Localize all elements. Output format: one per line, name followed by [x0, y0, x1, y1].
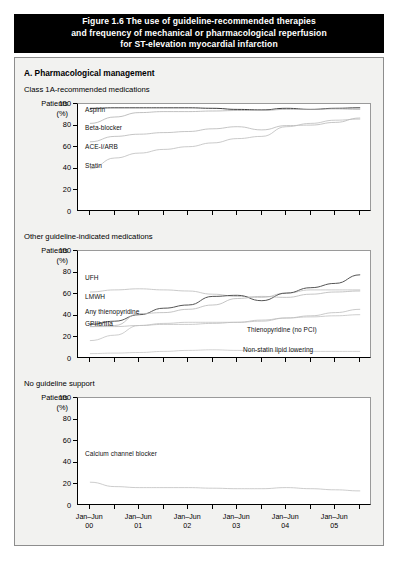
ytick-label-80: 80 — [49, 120, 71, 129]
xtick-label-year-2: 02 — [164, 522, 210, 531]
series-label-thienopyridine-no-pci: Thienopyridine (no PCI) — [247, 326, 317, 333]
xtick-mark-5 — [212, 358, 213, 362]
xtick-mark-2 — [138, 505, 139, 509]
figure-title-line-1: Figure 1.6 The use of guideline-recommen… — [82, 16, 316, 27]
xtick-mark-4 — [187, 358, 188, 362]
chart-3-title: No guideline support — [24, 379, 95, 388]
figure-body-panel: A. Pharmacological management Class 1A-r… — [14, 57, 384, 546]
xtick-mark-9 — [310, 358, 311, 362]
figure-title-line-3: for ST-elevation myocardial infarction — [120, 39, 278, 50]
xtick-mark-6 — [236, 505, 237, 509]
xtick-mark-0 — [89, 211, 90, 215]
xtick-mark-8 — [285, 505, 286, 509]
xtick-label-year-0: 00 — [66, 522, 112, 531]
ytick-label-100: 100 — [49, 246, 71, 255]
xtick-label-group-1: Jan–Jun01 — [115, 513, 161, 532]
chart-2-plot-area — [77, 250, 371, 358]
figure-root: Figure 1.6 The use of guideline-recommen… — [0, 0, 397, 570]
xtick-label-group-5: Jan–Jun05 — [311, 513, 357, 532]
series-label-ace-i-arb: ACE-I/ARB — [85, 143, 118, 150]
xtick-mark-6 — [236, 358, 237, 362]
xtick-mark-1 — [114, 358, 115, 362]
ytick-label-40: 40 — [49, 163, 71, 172]
xtick-label-period-4: Jan–Jun — [262, 513, 308, 522]
series-label-calcium-channel-blocker: Calcium channel blocker — [85, 450, 157, 457]
xtick-mark-8 — [285, 358, 286, 362]
ytick-label-60: 60 — [49, 436, 71, 445]
xtick-label-year-4: 04 — [262, 522, 308, 531]
series-line-calcium-channel-blocker — [90, 482, 360, 491]
chart-1-series-paths — [78, 104, 371, 211]
series-label-lmwh: LMWH — [85, 293, 105, 300]
ytick-label-40: 40 — [49, 457, 71, 466]
xtick-label-group-3: Jan–Jun03 — [213, 513, 259, 532]
series-line-beta-blocker — [90, 109, 360, 124]
chart-1-title: Class 1A-recommended medications — [24, 85, 150, 94]
ytick-label-0: 0 — [49, 354, 71, 363]
xtick-mark-7 — [261, 505, 262, 509]
xtick-mark-6 — [236, 211, 237, 215]
xtick-label-year-5: 05 — [311, 522, 357, 531]
xtick-label-period-5: Jan–Jun — [311, 513, 357, 522]
ytick-label-60: 60 — [49, 142, 71, 151]
xtick-label-group-0: Jan–Jun00 — [66, 513, 112, 532]
xtick-mark-10 — [334, 505, 335, 509]
xtick-mark-8 — [285, 211, 286, 215]
chart-2-yaxis-title-line2: (%) — [22, 256, 68, 266]
xtick-mark-5 — [212, 211, 213, 215]
xtick-label-period-3: Jan–Jun — [213, 513, 259, 522]
ytick-label-20: 20 — [49, 332, 71, 341]
ytick-label-100: 100 — [49, 393, 71, 402]
figure-title-line-2: and frequency of mechanical or pharmacol… — [71, 28, 327, 39]
xtick-mark-3 — [163, 211, 164, 215]
xtick-mark-2 — [138, 211, 139, 215]
xtick-mark-0 — [89, 358, 90, 362]
ytick-label-40: 40 — [49, 310, 71, 319]
xtick-label-group-2: Jan–Jun02 — [164, 513, 210, 532]
xtick-label-group-4: Jan–Jun04 — [262, 513, 308, 532]
ytick-label-20: 20 — [49, 185, 71, 194]
xtick-mark-11 — [359, 358, 360, 362]
series-label-non-statin-lipid-lowering: Non-statin lipid lowering — [243, 346, 313, 353]
xtick-mark-11 — [359, 505, 360, 509]
series-line-ace-i-arb — [90, 118, 360, 142]
series-label-ufh: UFH — [85, 274, 99, 281]
ytick-label-0: 0 — [49, 501, 71, 510]
series-label-any-thienopyridine: Any thienopyridine — [85, 308, 139, 315]
xtick-mark-0 — [89, 505, 90, 509]
xtick-mark-1 — [114, 211, 115, 215]
chart-3-yaxis-title-line2: (%) — [22, 403, 68, 413]
xtick-label-year-3: 03 — [213, 522, 259, 531]
xtick-mark-11 — [359, 211, 360, 215]
ytick-label-80: 80 — [49, 267, 71, 276]
ytick-label-60: 60 — [49, 289, 71, 298]
chart-1-plot-area — [77, 103, 371, 211]
section-heading-pharmacological-management: A. Pharmacological management — [24, 68, 155, 78]
xtick-label-year-1: 01 — [115, 522, 161, 531]
chart-2-title: Other guideline-indicated medications — [24, 232, 153, 241]
xtick-mark-3 — [163, 505, 164, 509]
series-label-beta-blocker: Beta-blocker — [85, 124, 122, 131]
series-line-non-statin-lipid-lowering — [90, 350, 360, 354]
series-label-aspirin: Aspirin — [85, 106, 105, 113]
xtick-mark-9 — [310, 211, 311, 215]
xtick-mark-4 — [187, 211, 188, 215]
ytick-label-20: 20 — [49, 479, 71, 488]
chart-2-series-paths — [78, 251, 371, 358]
xtick-mark-3 — [163, 358, 164, 362]
xtick-mark-2 — [138, 358, 139, 362]
xtick-label-period-2: Jan–Jun — [164, 513, 210, 522]
ytick-label-100: 100 — [49, 99, 71, 108]
xtick-mark-9 — [310, 505, 311, 509]
xtick-mark-7 — [261, 211, 262, 215]
series-label-statin: Statin — [85, 162, 102, 169]
series-line-statin — [90, 119, 360, 169]
ytick-label-0: 0 — [49, 207, 71, 216]
xtick-mark-7 — [261, 358, 262, 362]
xtick-label-period-0: Jan–Jun — [66, 513, 112, 522]
xtick-mark-10 — [334, 211, 335, 215]
xtick-mark-10 — [334, 358, 335, 362]
xtick-mark-1 — [114, 505, 115, 509]
ytick-label-80: 80 — [49, 414, 71, 423]
figure-title-banner: Figure 1.6 The use of guideline-recommen… — [14, 14, 384, 53]
